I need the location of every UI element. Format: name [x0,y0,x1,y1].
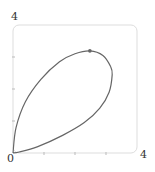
plot-area [0,0,155,172]
peak-marker [88,49,92,53]
curve-line [13,51,112,153]
axis-ticks [12,57,106,155]
plot-frame [13,25,137,153]
